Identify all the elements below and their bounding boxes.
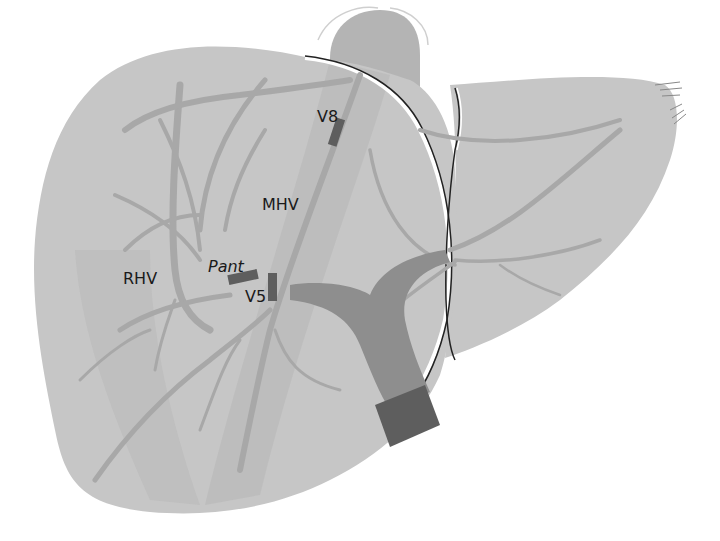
- label-mhv: MHV: [262, 195, 299, 214]
- v5-marker: [268, 273, 277, 301]
- label-v5: V5: [245, 287, 266, 306]
- label-pant: Pant: [208, 257, 245, 276]
- label-v8: V8: [317, 107, 338, 126]
- label-rhv: RHV: [123, 269, 157, 288]
- left-lobe: [445, 77, 677, 358]
- liver-diagram: V8 MHV RHV Pant V5: [0, 0, 720, 541]
